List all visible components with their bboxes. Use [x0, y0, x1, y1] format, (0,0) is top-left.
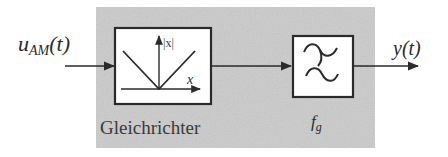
input-label-subscript: AM: [28, 43, 51, 58]
input-label-main: u: [18, 31, 29, 56]
rectifier-block: |x| x: [115, 28, 211, 104]
input-signal-label: uAM(t): [18, 31, 70, 58]
svg-text:uAM(t): uAM(t): [18, 31, 70, 58]
y-axis-label: |x|: [163, 36, 174, 50]
lowpass-caption-subscript: g: [316, 120, 322, 134]
lowpass-block: [293, 36, 353, 97]
output-signal-label: y(t): [391, 37, 421, 60]
block-diagram: uAM(t) |x| x Gleichrichter: [0, 0, 448, 157]
output-label-main: y: [391, 37, 402, 60]
x-axis-label: x: [186, 72, 194, 87]
output-label-arg: (t): [402, 37, 421, 60]
input-label-arg: (t): [49, 31, 70, 56]
rectifier-caption: Gleichrichter: [100, 117, 201, 138]
